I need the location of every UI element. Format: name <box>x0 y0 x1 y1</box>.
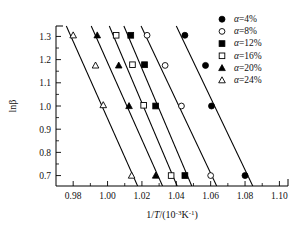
data-point <box>153 103 159 109</box>
axis-titles: lnβ1/T/(10-3K-1) <box>7 100 198 221</box>
data-point <box>182 32 188 38</box>
data-point <box>162 63 168 69</box>
data-point <box>179 103 185 109</box>
y-tick-label: 0.9 <box>39 125 51 135</box>
data-point <box>203 62 209 68</box>
legend-label: α=8% <box>234 26 257 36</box>
series-group <box>70 32 135 178</box>
y-tick-label: 1.1 <box>39 78 51 88</box>
y-axis-title: lnβ <box>7 100 18 113</box>
x-tick-label: 1.08 <box>237 191 254 201</box>
y-axis-ticks: 0.70.80.91.01.11.21.3 <box>39 32 61 181</box>
legend-marker <box>219 53 225 59</box>
data-point <box>130 62 136 68</box>
x-tick-label: 1.04 <box>168 191 185 201</box>
data-point <box>115 62 122 68</box>
kinetics-scatter-plot: 0.981.001.021.041.061.081.100.70.80.91.0… <box>0 0 304 236</box>
data-point <box>128 172 135 178</box>
y-tick-label: 1.3 <box>39 32 51 42</box>
y-tick-label: 1.0 <box>39 102 51 112</box>
x-tick-label: 1.10 <box>271 191 288 201</box>
data-point <box>209 103 215 109</box>
legend-marker <box>219 29 225 35</box>
legend-marker <box>219 77 226 83</box>
data-point <box>113 32 119 38</box>
x-tick-label: 1.02 <box>134 191 151 201</box>
x-tick-label: 1.00 <box>99 191 116 201</box>
chart-figure: 0.981.001.021.041.061.081.100.70.80.91.0… <box>0 0 304 236</box>
legend: α=4%α=8%α=12%α=16%α=20%α=24% <box>219 14 262 85</box>
x-axis-title: 1/T/(10-3K-1) <box>146 209 198 222</box>
data-point <box>92 62 99 68</box>
data-point <box>70 32 77 38</box>
y-tick-label: 1.2 <box>39 55 51 65</box>
legend-label: α=16% <box>234 51 262 61</box>
data-point <box>208 173 214 179</box>
data-point <box>242 173 248 179</box>
legend-label: α=24% <box>234 75 262 85</box>
y-tick-label: 0.8 <box>39 148 51 158</box>
legend-marker <box>219 41 225 47</box>
fit-lines <box>66 26 252 186</box>
x-tick-label: 0.98 <box>65 191 82 201</box>
data-point <box>141 103 147 109</box>
data-point <box>142 62 148 68</box>
legend-marker <box>219 65 226 71</box>
legend-label: α=12% <box>234 38 262 48</box>
y-tick-label: 0.7 <box>39 171 51 181</box>
data-point <box>168 173 174 179</box>
data-point <box>128 32 134 38</box>
legend-label: α=20% <box>234 63 262 73</box>
legend-marker <box>219 16 225 22</box>
data-point <box>144 32 150 38</box>
x-tick-label: 1.06 <box>202 191 219 201</box>
data-point <box>182 173 188 179</box>
legend-label: α=4% <box>234 14 257 24</box>
